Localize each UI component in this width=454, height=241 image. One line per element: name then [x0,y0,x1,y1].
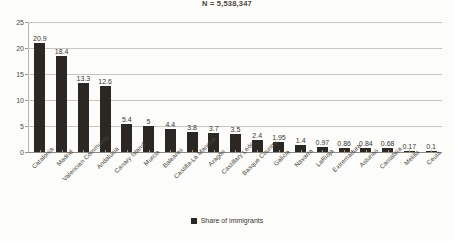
bar: 4.4 [165,129,176,152]
x-axis-label-slot: Aragón [203,153,225,208]
bar-value-label: 5 [147,118,151,125]
x-axis-label-slot: Cantabria [377,153,399,208]
bar-slot: 5.4 [116,22,138,152]
x-axis-label-slot: Asturias [355,153,377,208]
x-axis-label-slot: Murcia [138,153,160,208]
bar: 13.3 [78,83,89,152]
x-axis-label-slot: Andalucia [94,153,116,208]
bar: 18.4 [56,56,67,152]
x-axis-label-slot: Ceuta [420,153,442,208]
y-axis-tick-label: 0 [20,149,24,156]
bar-value-label: 0.68 [381,140,395,147]
bar-slot: 0.1 [420,22,442,152]
y-axis-tick-mark [25,152,28,153]
bar-value-label: 0.86 [337,140,351,147]
x-axis-label-slot: Galicia [268,153,290,208]
x-axis-label-slot: Valencian Community [72,153,94,208]
bar: 20.9 [34,43,45,152]
bar-slot: 1.4 [290,22,312,152]
x-axis-label-slot: Basque Country [246,153,268,208]
bar-series: 20.918.413.312.65.454.43.83.73.52.41.951… [29,22,442,152]
bar-value-label: 1.4 [296,137,306,144]
bar-value-label: 3.8 [187,124,197,131]
bar-slot: 3.8 [181,22,203,152]
bar-slot: 3.5 [225,22,247,152]
x-axis-tick-mark [62,150,63,153]
legend-swatch-icon [191,218,197,224]
x-axis-label-slot: Catalonia [29,153,51,208]
x-axis-label-slot: Melilla [398,153,420,208]
x-axis-label-slot: Castilla-La Mancha [181,153,203,208]
bar-slot: 0.68 [377,22,399,152]
y-axis-tick-mark [25,22,28,23]
x-axis-tick-mark [388,150,389,153]
x-axis-labels: CataloniaMadridValencian CommunityAndalu… [29,153,442,208]
bar-value-label: 0.97 [316,139,330,146]
y-axis-tick-label: 15 [16,71,24,78]
bar-value-label: 2.4 [252,132,262,139]
bar-chart: N = 5,538,347 0510152025 20.918.413.312.… [0,0,454,241]
y-axis-tick-label: 25 [16,19,24,26]
bar-slot: 5 [138,22,160,152]
chart-title: N = 5,538,347 [0,0,454,9]
bar-value-label: 13.3 [77,75,91,82]
bar: 5.4 [121,124,132,152]
x-axis-label-slot: Navarra [290,153,312,208]
bar-slot: 1.95 [268,22,290,152]
x-axis-label-slot: Canary Island [116,153,138,208]
x-axis-label-slot: Extremadura [333,153,355,208]
y-axis-tick-label: 5 [20,123,24,130]
x-axis-label-slot: LaRioja [312,153,334,208]
y-axis-tick-label: 20 [16,45,24,52]
bar-slot: 0.86 [333,22,355,152]
bar-slot: 3.7 [203,22,225,152]
bar-value-label: 4.4 [165,121,175,128]
bar: 5 [143,126,154,152]
bar-slot: 0.97 [312,22,334,152]
bar-value-label: 0.1 [426,143,436,150]
x-axis-label-slot: Madrid [51,153,73,208]
bar-slot: 20.9 [29,22,51,152]
bar-value-label: 18.4 [55,48,69,55]
y-axis-tick-mark [25,74,28,75]
x-axis-label-slot: Castillary León [225,153,247,208]
bar-value-label: 3.7 [209,125,219,132]
y-axis-tick-mark [25,48,28,49]
y-axis-tick-mark [25,126,28,127]
bar-slot: 2.4 [246,22,268,152]
bar-slot: 18.4 [51,22,73,152]
bar-slot: 0.17 [398,22,420,152]
y-axis-tick-mark [25,100,28,101]
bar-slot: 4.4 [159,22,181,152]
legend-label: Share of immigrants [201,217,264,224]
chart-legend: Share of immigrants [0,217,454,224]
plot-area: 0510152025 20.918.413.312.65.454.43.83.7… [28,22,442,152]
bar-slot: 0.84 [355,22,377,152]
x-axis-label-slot: Baleares [159,153,181,208]
bar-value-label: 5.4 [122,116,132,123]
x-axis-tick-mark [149,150,150,153]
bar-value-label: 3.5 [231,126,241,133]
y-axis-tick-label: 10 [16,97,24,104]
bar-value-label: 20.9 [33,35,47,42]
bar-value-label: 12.6 [98,78,112,85]
bar-slot: 13.3 [72,22,94,152]
